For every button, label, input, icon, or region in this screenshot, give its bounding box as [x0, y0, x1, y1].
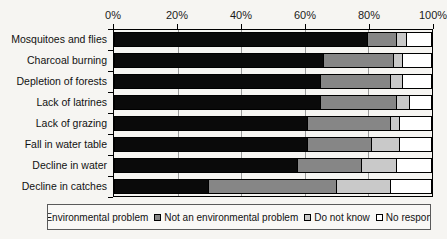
category-label-decline-in-catches: Decline in catches [0, 176, 107, 197]
bar-segment-do-not-know [337, 179, 391, 194]
legend-label: Not an environmental problem [164, 212, 298, 223]
bar-segment-no-response [403, 74, 432, 89]
category-label-lack-of-grazing: Lack of grazing [0, 113, 107, 134]
x-axis-tick-label: 0% [105, 9, 121, 21]
bar-segment-environmental-problem [114, 53, 324, 68]
bar-lack-of-grazing [114, 116, 432, 131]
legend-label: Do not know [314, 212, 370, 223]
legend-item-not-an-environmental-problem: Not an environmental problem [154, 212, 298, 223]
bar-segment-environmental-problem [114, 32, 368, 47]
bar-segment-no-response [403, 53, 432, 68]
bar-segment-not-an-environmental-problem [209, 179, 336, 194]
category-label-lack-of-latrines: Lack of latrines [0, 92, 107, 113]
bar-fall-in-water-table [114, 137, 432, 152]
bar-segment-not-an-environmental-problem [308, 116, 391, 131]
legend-label: Environmental problem [47, 212, 148, 223]
x-axis-tick [433, 24, 434, 29]
x-axis-tick-label: 20% [166, 9, 188, 21]
bar-segment-no-response [410, 95, 432, 110]
legend-item-environmental-problem: Environmental problem [47, 212, 148, 223]
bar-segment-not-an-environmental-problem [324, 53, 394, 68]
bar-segment-no-response [391, 179, 432, 194]
bar-segment-environmental-problem [114, 74, 321, 89]
legend-marker-icon [304, 214, 311, 221]
bar-segment-environmental-problem [114, 158, 298, 173]
bar-segment-do-not-know [391, 74, 404, 89]
x-axis-tick-label: 60% [294, 9, 316, 21]
bar-segment-environmental-problem [114, 116, 308, 131]
bar-segment-no-response [397, 158, 432, 173]
bar-segment-do-not-know [391, 116, 401, 131]
legend: Environmental problemNot an environmenta… [47, 204, 431, 230]
legend-marker-icon [154, 214, 161, 221]
bar-segment-do-not-know [372, 137, 401, 152]
bar-lack-of-latrines [114, 95, 432, 110]
x-axis-tick-label: 80% [358, 9, 380, 21]
bar-charcoal-burning [114, 53, 432, 68]
bar-segment-not-an-environmental-problem [298, 158, 362, 173]
bar-segment-not-an-environmental-problem [308, 137, 372, 152]
bar-segment-environmental-problem [114, 179, 209, 194]
bar-decline-in-water [114, 158, 432, 173]
x-axis-tick-label: 40% [230, 9, 252, 21]
bar-segment-not-an-environmental-problem [368, 32, 397, 47]
bar-decline-in-catches [114, 179, 432, 194]
bar-mosquitoes-and-flies [114, 32, 432, 47]
category-label-mosquitoes-and-flies: Mosquitoes and flies [0, 29, 107, 50]
legend-label: No response [386, 212, 431, 223]
x-axis-tick-label: 100% [419, 9, 447, 21]
bar-segment-no-response [400, 137, 432, 152]
legend-marker-icon [376, 214, 383, 221]
bar-segment-do-not-know [362, 158, 397, 173]
bar-segment-do-not-know [397, 95, 410, 110]
category-label-fall-in-water-table: Fall in water table [0, 134, 107, 155]
category-axis-tick [108, 197, 113, 198]
bar-segment-do-not-know [397, 32, 407, 47]
bar-segment-no-response [400, 116, 432, 131]
bar-segment-not-an-environmental-problem [321, 74, 391, 89]
bar-segment-no-response [407, 32, 432, 47]
category-label-charcoal-burning: Charcoal burning [0, 50, 107, 71]
plot-area [113, 29, 433, 197]
bar-segment-environmental-problem [114, 137, 308, 152]
legend-item-do-not-know: Do not know [304, 212, 370, 223]
bar-segment-not-an-environmental-problem [321, 95, 397, 110]
category-label-depletion-of-forests: Depletion of forests [0, 71, 107, 92]
bar-segment-environmental-problem [114, 95, 321, 110]
category-label-decline-in-water: Decline in water [0, 155, 107, 176]
bar-depletion-of-forests [114, 74, 432, 89]
bar-segment-do-not-know [394, 53, 404, 68]
legend-item-no-response: No response [376, 212, 431, 223]
